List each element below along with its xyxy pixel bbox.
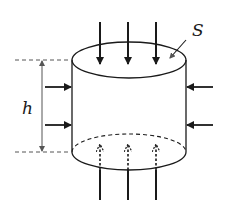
cylinder-pressure-diagram: h S	[0, 0, 230, 215]
bottom-pressure-arrows	[100, 145, 156, 200]
surface-label: S	[192, 22, 204, 39]
bottom-ellipse-back-hidden	[72, 134, 186, 152]
bottom-ellipse-front	[72, 152, 186, 170]
side-pressure-arrows	[45, 87, 213, 125]
height-label: h	[22, 100, 33, 117]
